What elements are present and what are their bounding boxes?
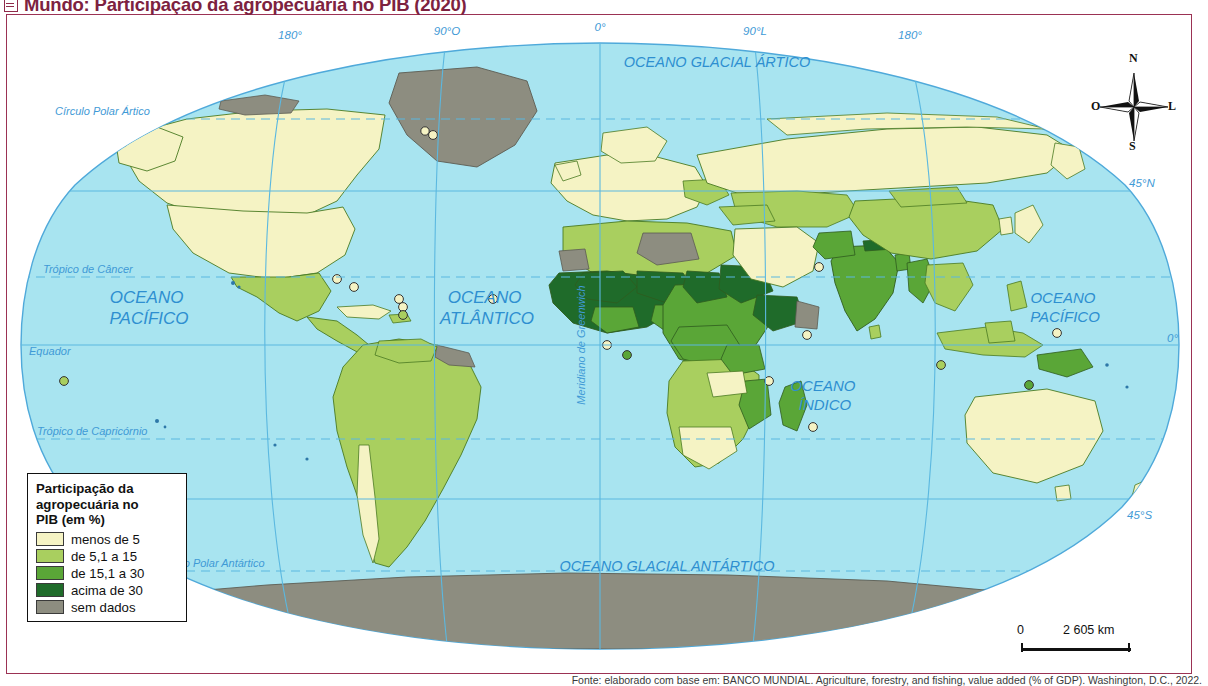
legend-label-5: sem dados (71, 600, 136, 615)
scale-label-zero: 0 (1017, 623, 1024, 637)
legend-label-2: de 5,1 a 15 (71, 549, 137, 564)
scale-bar-rule (1021, 648, 1131, 651)
map-legend: Participação da agropecuária no PIB (em … (27, 473, 187, 622)
legend-swatch-1 (36, 532, 64, 546)
scale-bar: 0 2 605 km (1015, 623, 1155, 659)
longitude-label-0: 0° (595, 21, 606, 33)
legend-title-line2: agropecuária no (36, 497, 139, 512)
legend-swatch-4 (36, 583, 64, 597)
latitude-label-45n: 45°N (1129, 177, 1155, 189)
legend-label-1: menos de 5 (71, 532, 140, 547)
compass-label-north: N (1129, 51, 1138, 66)
legend-title-line1: Participação da (36, 481, 133, 496)
legend-swatch-2 (36, 549, 64, 563)
legend-item-15-30: de 15,1 a 30 (36, 566, 178, 581)
map-legend-icon (4, 0, 18, 12)
legend-swatch-5 (36, 600, 64, 614)
label-tropic-cancer: Trópico de Câncer (43, 263, 134, 275)
compass-rose: N S L O (1092, 51, 1176, 155)
source-note: Fonte: elaborado com base em: BANCO MUND… (0, 674, 1208, 686)
label-equator: Equador (29, 345, 72, 357)
scale-bar-labels: 0 2 605 km (1015, 623, 1155, 638)
longitude-label-180w: 180° (278, 29, 302, 41)
latitude-label-0: 0° (1167, 332, 1178, 344)
region-mongolia (889, 187, 967, 207)
longitude-label-90e: 90°L (743, 25, 767, 37)
legend-label-4: acima de 30 (71, 583, 143, 598)
page-title-text: Mundo: Participação da agropecuária no P… (24, 0, 467, 16)
page-title: Mundo: Participação da agropecuária no P… (0, 0, 467, 16)
region-korea (999, 217, 1013, 235)
legend-item-menos-de-5: menos de 5 (36, 532, 178, 547)
region-western-sahara (559, 249, 589, 271)
image-credit: João Miguel A. Moreira/ID/BR (1179, 33, 1192, 203)
ocean-label-arctic: OCEANO GLACIAL ÁRTICO (624, 54, 810, 70)
image-credit-text: João Miguel A. Moreira/ID/BR (1190, 14, 1192, 35)
scale-tick-end (1128, 643, 1130, 652)
island-sri-lanka (869, 325, 881, 339)
legend-label-3: de 15,1 a 30 (71, 566, 144, 581)
map-container: 180° 90°O 0° 90°L 180° 45°N 0° 45°S Círc… (6, 14, 1192, 674)
country-zambia (707, 371, 747, 397)
longitude-label-90w: 90°O (434, 25, 460, 37)
legend-item-sem-dados: sem dados (36, 600, 178, 615)
legend-title: Participação da agropecuária no PIB (em … (36, 481, 178, 528)
compass-label-west: O (1091, 99, 1100, 114)
label-arctic-circle: Círculo Polar Ártico (55, 105, 150, 117)
longitude-label-180e: 180° (898, 29, 922, 41)
latitude-label-45s: 45°S (1127, 509, 1152, 521)
legend-swatch-3 (36, 566, 64, 580)
island-borneo (985, 321, 1015, 343)
scale-label-distance: 2 605 km (1063, 623, 1114, 637)
scale-bar-line (1021, 643, 1131, 652)
label-tropic-capricorn: Trópico de Capricórnio (37, 425, 147, 437)
compass-label-south: S (1129, 139, 1136, 154)
label-greenwich-meridian: Meridiano de Greenwich (575, 285, 587, 404)
longitude-labels: 180° 90°O 0° 90°L 180° (278, 21, 922, 41)
scale-tick-start (1021, 643, 1023, 652)
legend-item-acima-de-30: acima de 30 (36, 583, 178, 598)
legend-item-5-15: de 5,1 a 15 (36, 549, 178, 564)
compass-label-east: L (1168, 99, 1176, 114)
legend-title-line3: PIB (em %) (36, 512, 105, 527)
ocean-label-antarctic: OCEANO GLACIAL ANTÁRTICO (560, 558, 775, 574)
